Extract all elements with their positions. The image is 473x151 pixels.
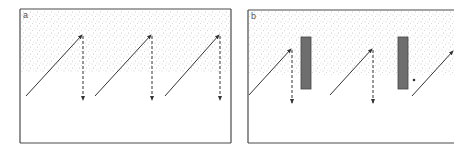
panel-label-a: a	[23, 10, 28, 20]
stipple-region	[249, 11, 454, 75]
panel-a: a	[20, 9, 231, 143]
barrier-block	[398, 37, 408, 89]
panel-label-b: b	[251, 11, 256, 21]
panel-b: b	[248, 10, 454, 143]
dot-marker	[413, 79, 416, 82]
barrier-block	[301, 37, 311, 89]
diagram-canvas: a b	[0, 0, 473, 151]
